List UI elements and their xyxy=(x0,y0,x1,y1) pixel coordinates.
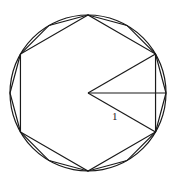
radius-label: 1 xyxy=(112,111,118,122)
radius-line xyxy=(88,54,156,93)
radius-line xyxy=(88,93,156,132)
geometry-diagram xyxy=(0,0,174,193)
